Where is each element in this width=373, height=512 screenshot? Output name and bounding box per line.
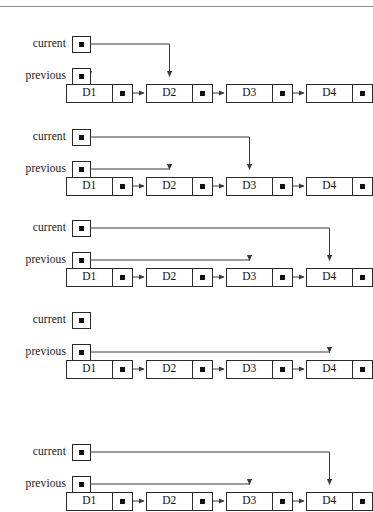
pointer-label-previous-step5: previous [0, 477, 66, 489]
pointer-dot-icon [200, 184, 205, 189]
diagram-canvas: currentpreviouscurrentpreviouscurrentpre… [0, 0, 373, 512]
pointer-arrow [91, 137, 250, 170]
node-data-value: D4 [307, 269, 353, 286]
node-next-pointer [193, 269, 212, 286]
pointer-box-current-step1[interactable] [72, 36, 91, 53]
pointer-label-previous-step2: previous [0, 162, 66, 174]
pointer-dot-icon [120, 184, 125, 189]
pointer-box-previous-step2[interactable] [72, 161, 91, 178]
node-next-pointer [193, 493, 212, 510]
list-node-d2-step1[interactable]: D2 [146, 84, 213, 103]
list-node-d3-step5[interactable]: D3 [226, 492, 293, 511]
list-node-d1-step3[interactable]: D1 [66, 268, 133, 287]
pointer-dot-icon [79, 167, 84, 172]
pointer-dot-icon [79, 135, 84, 140]
node-data-value: D3 [227, 269, 273, 286]
pointer-arrow [91, 228, 330, 261]
list-node-d2-step5[interactable]: D2 [146, 492, 213, 511]
pointer-box-current-step4[interactable] [72, 312, 91, 329]
pointer-dot-icon [360, 184, 365, 189]
node-data-value: D1 [67, 361, 113, 378]
node-next-pointer [193, 361, 212, 378]
pointer-dot-icon [360, 499, 365, 504]
pointer-arrow [91, 352, 330, 353]
pointer-dot-icon [280, 499, 285, 504]
pointer-dot-icon [120, 367, 125, 372]
pointer-label-current-step5: current [0, 445, 66, 457]
pointer-box-previous-step1[interactable] [72, 68, 91, 85]
list-node-d2-step2[interactable]: D2 [146, 177, 213, 196]
node-next-pointer [273, 361, 292, 378]
node-data-value: D4 [307, 85, 353, 102]
node-next-pointer [113, 178, 132, 195]
node-data-value: D3 [227, 493, 273, 510]
pointer-box-current-step3[interactable] [72, 220, 91, 237]
list-node-d2-step3[interactable]: D2 [146, 268, 213, 287]
pointer-dot-icon [280, 91, 285, 96]
node-data-value: D3 [227, 85, 273, 102]
list-node-d3-step2[interactable]: D3 [226, 177, 293, 196]
pointer-dot-icon [280, 184, 285, 189]
pointer-dot-icon [360, 91, 365, 96]
node-data-value: D2 [147, 493, 193, 510]
pointer-dot-icon [200, 275, 205, 280]
pointer-label-previous-step3: previous [0, 253, 66, 265]
node-next-pointer [353, 85, 372, 102]
node-data-value: D3 [227, 178, 273, 195]
node-next-pointer [273, 493, 292, 510]
pointer-dot-icon [79, 350, 84, 355]
pointer-dot-icon [200, 91, 205, 96]
pointer-box-previous-step3[interactable] [72, 252, 91, 269]
list-node-d2-step4[interactable]: D2 [146, 360, 213, 379]
node-data-value: D1 [67, 269, 113, 286]
list-node-d4-step3[interactable]: D4 [306, 268, 373, 287]
node-data-value: D4 [307, 493, 353, 510]
node-next-pointer [113, 269, 132, 286]
pointer-dot-icon [280, 275, 285, 280]
pointer-label-current-step4: current [0, 313, 66, 325]
pointer-box-previous-step5[interactable] [72, 476, 91, 493]
pointer-label-previous-step4: previous [0, 345, 66, 357]
pointer-label-current-step3: current [0, 221, 66, 233]
list-node-d1-step1[interactable]: D1 [66, 84, 133, 103]
list-node-d3-step3[interactable]: D3 [226, 268, 293, 287]
pointer-box-previous-step4[interactable] [72, 344, 91, 361]
node-data-value: D3 [227, 361, 273, 378]
pointer-arrow [91, 452, 330, 485]
node-next-pointer [273, 85, 292, 102]
pointer-dot-icon [79, 42, 84, 47]
list-node-d4-step2[interactable]: D4 [306, 177, 373, 196]
pointer-dot-icon [120, 499, 125, 504]
node-data-value: D4 [307, 178, 353, 195]
node-next-pointer [353, 361, 372, 378]
list-node-d4-step5[interactable]: D4 [306, 492, 373, 511]
pointer-dot-icon [79, 226, 84, 231]
node-data-value: D1 [67, 493, 113, 510]
pointer-box-current-step5[interactable] [72, 444, 91, 461]
pointer-label-current-step2: current [0, 130, 66, 142]
list-node-d1-step2[interactable]: D1 [66, 177, 133, 196]
node-next-pointer [113, 493, 132, 510]
list-node-d3-step1[interactable]: D3 [226, 84, 293, 103]
list-node-d4-step1[interactable]: D4 [306, 84, 373, 103]
pointer-dot-icon [360, 367, 365, 372]
node-data-value: D4 [307, 361, 353, 378]
pointer-dot-icon [79, 74, 84, 79]
pointer-dot-icon [120, 275, 125, 280]
list-node-d3-step4[interactable]: D3 [226, 360, 293, 379]
node-data-value: D2 [147, 269, 193, 286]
node-next-pointer [113, 85, 132, 102]
pointer-label-previous-step1: previous [0, 69, 66, 81]
list-node-d4-step4[interactable]: D4 [306, 360, 373, 379]
pointer-arrow [91, 484, 250, 485]
list-node-d1-step5[interactable]: D1 [66, 492, 133, 511]
list-node-d1-step4[interactable]: D1 [66, 360, 133, 379]
pointer-arrow [91, 44, 170, 77]
pointer-dot-icon [79, 258, 84, 263]
pointer-box-current-step2[interactable] [72, 129, 91, 146]
node-data-value: D2 [147, 361, 193, 378]
pointer-dot-icon [280, 367, 285, 372]
node-data-value: D1 [67, 85, 113, 102]
node-data-value: D1 [67, 178, 113, 195]
pointer-dot-icon [200, 367, 205, 372]
